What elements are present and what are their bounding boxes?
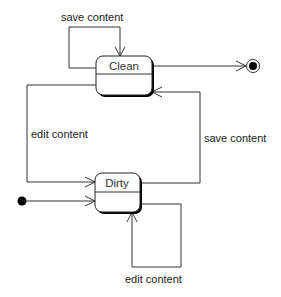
transition-dirty-to-clean: save content [140,87,266,183]
transition-initial-dirty [18,196,96,206]
label-clean-save: save content [61,11,123,23]
state-dirty[interactable]: Dirty [95,173,142,214]
transition-clean-final [152,61,246,71]
transition-clean-to-dirty: edit content [27,85,96,187]
label-edit-content: edit content [31,128,88,140]
label-dirty-edit: edit content [125,273,182,285]
state-diagram: save content edit content save content e… [0,0,281,297]
final-state-icon [247,60,260,73]
state-dirty-name: Dirty [105,177,129,189]
state-clean[interactable]: Clean [96,56,154,97]
state-clean-name: Clean [109,60,139,72]
label-save-content: save content [204,132,266,144]
transition-dirty-self-edit: edit content [125,204,182,285]
